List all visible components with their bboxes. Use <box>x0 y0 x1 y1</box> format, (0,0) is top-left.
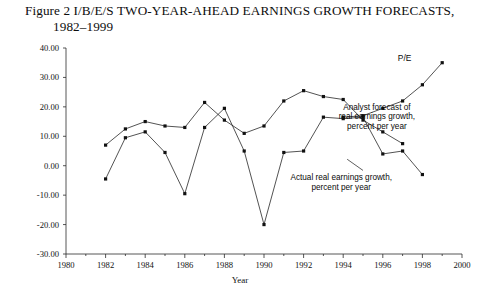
x-tick-label: 1980 <box>57 260 74 270</box>
data-point-marker <box>302 149 305 152</box>
x-tick-label: 1986 <box>176 260 194 270</box>
y-tick-label: 30.00 <box>40 72 59 82</box>
data-point-marker <box>124 136 127 139</box>
data-point-marker <box>183 192 186 195</box>
actual-growth-annotation: Actual real earnings growth,percent per … <box>290 173 392 192</box>
data-point-marker <box>144 120 147 123</box>
chart-series-group <box>104 61 444 226</box>
analyst-forecast-annotation: Analyst forecast ofreal earnings growth,… <box>339 103 415 131</box>
pe-label: P/E <box>398 53 412 63</box>
y-tick-label: -30.00 <box>37 249 59 259</box>
x-tick-label: 1988 <box>216 260 233 270</box>
y-tick-label: 10.00 <box>40 131 59 141</box>
figure-root: Figure 2 I/B/E/S TWO-YEAR-AHEAD EARNINGS… <box>0 0 479 295</box>
data-point-marker <box>203 101 206 104</box>
x-tick-label: 1996 <box>374 260 392 270</box>
x-tick-label: 1994 <box>335 260 353 270</box>
data-point-marker <box>223 119 226 122</box>
earnings-growth-line-chart: 40.0030.0020.0010.000.00-10.00-20.00-30.… <box>0 0 479 295</box>
data-point-marker <box>243 132 246 135</box>
x-axis-ticks: 1980198219841986198819901992199419961998… <box>57 254 470 270</box>
y-tick-label: 0.00 <box>44 161 59 171</box>
x-tick-label: 1990 <box>255 260 272 270</box>
data-point-marker <box>322 116 325 119</box>
annotation-line: percent per year <box>311 183 371 192</box>
x-axis-title: Year <box>232 275 249 285</box>
x-tick-label: 1984 <box>137 260 155 270</box>
annotation-line: Actual real earnings growth, <box>290 173 392 182</box>
annotation-line: real earnings growth, <box>339 112 415 121</box>
y-tick-label: 20.00 <box>40 102 59 112</box>
chart-annotations: P/EAnalyst forecast ofreal earnings grow… <box>290 53 415 192</box>
y-tick-label: 40.00 <box>40 43 59 53</box>
x-tick-label: 1992 <box>295 260 312 270</box>
data-point-marker <box>401 142 404 145</box>
data-point-marker <box>163 124 166 127</box>
data-point-marker <box>262 223 265 226</box>
x-tick-label: 2000 <box>453 260 470 270</box>
data-point-marker <box>282 99 285 102</box>
data-point-marker <box>183 126 186 129</box>
data-point-marker <box>282 151 285 154</box>
data-point-marker <box>104 177 107 180</box>
data-point-marker <box>401 149 404 152</box>
data-point-marker <box>342 98 345 101</box>
data-point-marker <box>421 83 424 86</box>
data-point-marker <box>322 95 325 98</box>
actual-growth-leader-line <box>347 159 363 170</box>
y-tick-label: -20.00 <box>37 220 59 230</box>
data-point-marker <box>441 61 444 64</box>
y-axis-ticks: 40.0030.0020.0010.000.00-10.00-20.00-30.… <box>37 43 66 259</box>
y-tick-label: -10.00 <box>37 190 59 200</box>
x-tick-label: 1982 <box>97 260 114 270</box>
data-point-marker <box>163 151 166 154</box>
data-point-marker <box>262 124 265 127</box>
data-point-marker <box>243 149 246 152</box>
data-point-marker <box>381 152 384 155</box>
data-point-marker <box>302 89 305 92</box>
chart-plot-area: 40.0030.0020.0010.000.00-10.00-20.00-30.… <box>0 0 479 295</box>
annotation-line: Analyst forecast of <box>343 103 411 112</box>
x-tick-label: 1998 <box>414 260 431 270</box>
data-point-marker <box>104 144 107 147</box>
data-point-marker <box>203 126 206 129</box>
annotation-line: percent per year <box>347 122 407 131</box>
data-point-marker <box>144 130 147 133</box>
data-point-marker <box>223 107 226 110</box>
data-point-marker <box>124 127 127 130</box>
data-point-marker <box>421 173 424 176</box>
